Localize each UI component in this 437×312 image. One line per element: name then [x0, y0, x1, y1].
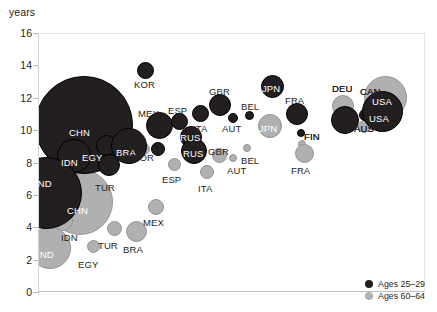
- bubble-chart: years 0246810121416 CHNIDNINDEGYTURBRAME…: [0, 0, 437, 312]
- bubble-label-esp: ESP: [162, 175, 181, 185]
- bubble-kor[interactable]: [137, 62, 154, 79]
- bubble-label-idn: IDN: [61, 233, 78, 243]
- y-axis-tick-label: 0: [6, 286, 32, 298]
- plot-area: CHNIDNINDEGYTURBRAMEXKORESPITAGBRAUTBELJ…: [38, 33, 425, 292]
- bubble-label-mex: MEX: [143, 218, 164, 228]
- bubble-label-usa: USA: [369, 114, 389, 124]
- bubble-label-can: CAN: [360, 87, 380, 97]
- bubble-label-rus: RUS: [183, 149, 203, 159]
- bubble-label-aut: AUT: [227, 166, 246, 176]
- legend-label: Ages 60–64: [378, 290, 425, 302]
- y-axis-tick-mark: [33, 292, 39, 293]
- bubble-bel[interactable]: [243, 144, 251, 152]
- bubble-mex[interactable]: [148, 199, 164, 215]
- bubble-label-esp: ESP: [168, 106, 187, 116]
- bubble-label-mex: MEX: [138, 109, 159, 119]
- bubble-label-egy: EGY: [82, 153, 102, 163]
- y-axis-tick-label: 2: [6, 254, 32, 266]
- legend-item-ages-60-64[interactable]: Ages 60–64: [365, 290, 425, 302]
- bubble-label-jpn: JPN: [259, 124, 277, 134]
- bubble-label-tur: TUR: [98, 241, 118, 251]
- bubble-ita[interactable]: [192, 105, 209, 122]
- bubble-label-gbr: GBR: [209, 87, 230, 97]
- bubble-aut[interactable]: [228, 113, 238, 123]
- y-axis-tick-label: 14: [6, 59, 32, 71]
- bubble-label-ind: IND: [38, 250, 54, 260]
- legend-swatch-icon: [365, 292, 373, 300]
- bubble-label-bel: BEL: [241, 102, 259, 112]
- bubble-label-idn: IDN: [61, 158, 78, 168]
- bubble-label-egy: EGY: [78, 260, 98, 270]
- y-axis-tick-label: 4: [6, 221, 32, 233]
- bubble-label-chn: CHN: [69, 128, 90, 138]
- bubble-label-ita: ITA: [198, 184, 212, 194]
- bubble-label-bra: BRA: [123, 245, 143, 255]
- legend-swatch-icon: [365, 280, 373, 288]
- y-axis-tick-label: 10: [6, 124, 32, 136]
- bubble-gbr[interactable]: [209, 94, 231, 116]
- bubble-label-fra: FRA: [285, 96, 304, 106]
- bubble-fra[interactable]: [295, 144, 314, 163]
- bubble-label-chn: CHN: [67, 206, 88, 216]
- bubble-label-deu: DEU: [332, 84, 352, 94]
- y-axis-tick-label: 12: [6, 92, 32, 104]
- bubble-label-usa: USA: [372, 97, 392, 107]
- y-axis-tick-label: 16: [6, 27, 32, 39]
- bubble-tur[interactable]: [107, 221, 122, 236]
- bubble-label-tur: TUR: [95, 183, 115, 193]
- bubble-label-aus: AUS: [354, 124, 374, 134]
- y-axis-tick-label: 8: [6, 157, 32, 169]
- y-axis-tick-label: 6: [6, 189, 32, 201]
- bubble-label-fra: FRA: [291, 166, 310, 176]
- bubble-label-bel: BEL: [241, 156, 259, 166]
- legend-item-ages-25-29[interactable]: Ages 25–29: [365, 278, 425, 290]
- bubble-fra[interactable]: [286, 103, 308, 125]
- legend-label: Ages 25–29: [378, 278, 425, 290]
- y-axis-title: years: [9, 6, 35, 18]
- bubble-aut[interactable]: [229, 154, 237, 162]
- bubble-label-fin: FIN: [304, 132, 320, 142]
- bubble-label-aut: AUT: [222, 124, 241, 134]
- bubble-esp[interactable]: [168, 158, 181, 171]
- bubble-label-jpn: JPN: [262, 84, 280, 94]
- bubble-label-ind: IND: [38, 179, 52, 189]
- chart-legend: Ages 25–29Ages 60–64: [365, 278, 425, 302]
- bubble-label-gbr: GBR: [208, 147, 229, 157]
- bubble-label-kor: KOR: [134, 80, 155, 90]
- bubble-label-rus: RUS: [180, 133, 200, 143]
- bubble-ita[interactable]: [200, 165, 214, 179]
- bubble-label-kor: KOR: [118, 153, 139, 163]
